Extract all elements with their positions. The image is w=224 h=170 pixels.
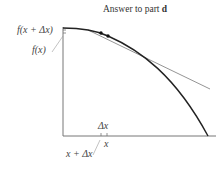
point-x (106, 34, 109, 37)
label-f-x-plus-dx: f(x + Δx) (17, 24, 53, 35)
leader-f-x (52, 36, 63, 52)
function-curve (63, 28, 208, 136)
point-x-plus-dx (99, 31, 102, 34)
label-f-x: f(x) (32, 44, 46, 55)
tangent-line (88, 30, 210, 89)
leader-x-plus-dx (93, 140, 100, 155)
label-x-plus-dx: x + Δx (66, 148, 93, 159)
label-x: x (104, 138, 108, 149)
label-delta-x: Δx (98, 120, 108, 131)
